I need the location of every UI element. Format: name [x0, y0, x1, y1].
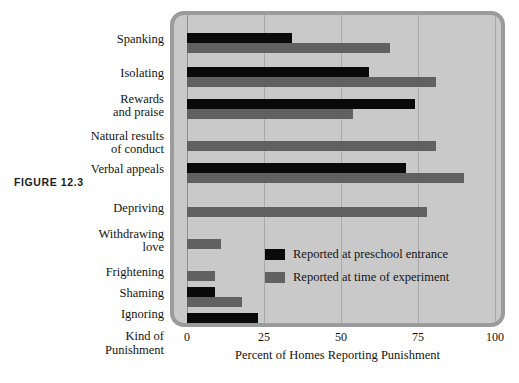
- bar-time-of-experiment: [187, 207, 427, 217]
- x-tick-label-100: 100: [486, 330, 504, 345]
- category-label: Verbal appeals: [14, 163, 164, 177]
- category-label-line: Natural results: [14, 130, 164, 144]
- category-label-line: and praise: [14, 106, 164, 120]
- chart-legend: Reported at preschool entranceReported a…: [265, 247, 449, 293]
- bar-time-of-experiment: [187, 109, 353, 119]
- bar-time-of-experiment: [187, 297, 242, 307]
- bar-preschool-entrance: [187, 163, 406, 173]
- category-label-line: Ignoring: [14, 308, 164, 322]
- bar-time-of-experiment: [187, 141, 436, 151]
- category-label-line: Depriving: [14, 202, 164, 216]
- bar-preschool-entrance: [187, 287, 215, 297]
- category-label-line: of conduct: [14, 143, 164, 157]
- x-tick-label-50: 50: [335, 330, 347, 345]
- legend-label: Reported at preschool entrance: [293, 247, 448, 262]
- legend-item: Reported at preschool entrance: [265, 247, 449, 262]
- gridline-100: [495, 15, 496, 323]
- x-tick-label-25: 25: [258, 330, 270, 345]
- legend-swatch-dark: [265, 249, 285, 260]
- y-axis-title: Kind of Punishment: [14, 330, 164, 357]
- category-label: Ignoring: [14, 308, 164, 322]
- y-axis-title-line1: Kind of: [14, 330, 164, 344]
- category-label: Withdrawinglove: [14, 228, 164, 255]
- figure-container: FIGURE 12.3 SpankingIsolatingRewardsand …: [0, 0, 519, 383]
- category-label-line: Shaming: [14, 287, 164, 301]
- bar-time-of-experiment: [187, 77, 436, 87]
- bar-time-of-experiment: [187, 239, 221, 249]
- category-label: Isolating: [14, 67, 164, 81]
- legend-label: Reported at time of experiment: [293, 270, 449, 285]
- bar-preschool-entrance: [187, 67, 369, 77]
- category-axis-labels: SpankingIsolatingRewardsand praiseNatura…: [14, 11, 164, 327]
- category-label: Depriving: [14, 202, 164, 216]
- category-label-line: Withdrawing: [14, 228, 164, 242]
- x-tick-label-75: 75: [412, 330, 424, 345]
- category-label-line: Isolating: [14, 67, 164, 81]
- bar-preschool-entrance: [187, 33, 292, 43]
- category-label-line: Rewards: [14, 93, 164, 107]
- x-axis-title: Percent of Homes Reporting Punishment: [170, 348, 505, 363]
- category-label-line: Spanking: [14, 33, 164, 47]
- category-label: Spanking: [14, 33, 164, 47]
- legend-swatch-light: [265, 272, 285, 283]
- x-tick-label-0: 0: [184, 330, 190, 345]
- bar-time-of-experiment: [187, 173, 464, 183]
- category-label-line: Verbal appeals: [14, 163, 164, 177]
- category-label: Natural resultsof conduct: [14, 130, 164, 157]
- legend-item: Reported at time of experiment: [265, 270, 449, 285]
- bar-time-of-experiment: [187, 43, 390, 53]
- category-label-line: Frightening: [14, 266, 164, 280]
- bar-time-of-experiment: [187, 271, 215, 281]
- category-label: Rewardsand praise: [14, 93, 164, 120]
- category-label-line: love: [14, 241, 164, 255]
- y-axis-title-line2: Punishment: [14, 344, 164, 358]
- category-label: Shaming: [14, 287, 164, 301]
- bar-preschool-entrance: [187, 99, 415, 109]
- bar-preschool-entrance: [187, 313, 258, 323]
- category-label: Frightening: [14, 266, 164, 280]
